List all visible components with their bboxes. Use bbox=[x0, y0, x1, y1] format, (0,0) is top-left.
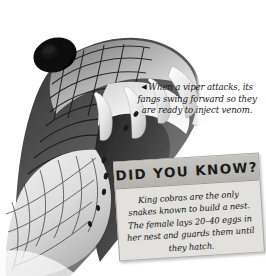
photo-caption: ◀When a viper attacks, its fangs swing f… bbox=[133, 82, 261, 117]
did-you-know-text: King cobras are the only snakes known to… bbox=[123, 187, 257, 257]
book-page: folded away. bbox=[0, 0, 266, 276]
did-you-know-body: King cobras are the only snakes known to… bbox=[116, 181, 264, 262]
did-you-know-title: DID YOU KNOW? bbox=[115, 159, 258, 184]
did-you-know-box: DID YOU KNOW? King cobras are the only s… bbox=[113, 153, 265, 262]
left-triangle-icon: ◀ bbox=[141, 83, 146, 91]
did-you-know-panel: DID YOU KNOW? King cobras are the only s… bbox=[113, 153, 265, 262]
photo-caption-text: When a viper attacks, its fangs swing fo… bbox=[137, 82, 256, 115]
